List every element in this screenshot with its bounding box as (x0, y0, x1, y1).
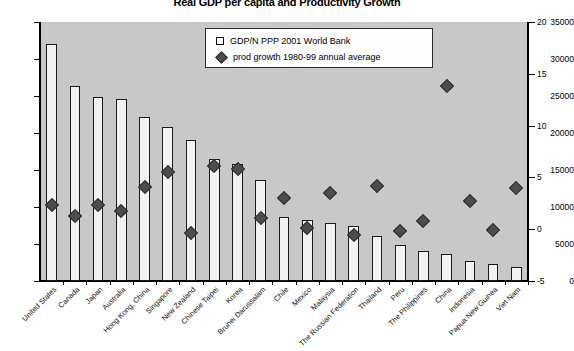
legend-label-growth: prod growth 1980-99 annual average (233, 52, 381, 62)
right-tick-label: 10 (537, 121, 567, 131)
left-tick (34, 22, 40, 23)
right-tick (529, 281, 535, 282)
left-tick-label: 10000 (540, 202, 574, 212)
right-tick (529, 177, 535, 178)
x-tick (86, 281, 87, 285)
left-tick (34, 133, 40, 134)
legend-entry-points: prod growth 1980-99 annual average (212, 49, 426, 65)
chart-container: Real GDP per capita and Productivity Gro… (0, 0, 574, 351)
bar (465, 261, 476, 281)
left-tick (34, 96, 40, 97)
left-tick-label: 30000 (540, 54, 574, 64)
left-axis-line (39, 22, 41, 282)
x-tick (389, 281, 390, 285)
right-axis-line (527, 22, 529, 282)
bar (93, 97, 104, 281)
left-tick-label: 5000 (540, 239, 574, 249)
x-tick (505, 281, 506, 285)
bar (441, 254, 452, 281)
left-tick (34, 244, 40, 245)
left-tick (34, 207, 40, 208)
right-tick-label: -5 (537, 276, 567, 286)
x-tick (412, 281, 413, 285)
bar (232, 164, 243, 281)
right-tick (529, 126, 535, 127)
bar (70, 86, 81, 281)
bar (488, 264, 499, 281)
x-tick (342, 281, 343, 285)
x-tick (296, 281, 297, 285)
diamond-marker-icon (215, 51, 228, 64)
bar (46, 44, 57, 281)
bar (511, 267, 522, 281)
bar (209, 159, 220, 281)
left-tick (34, 59, 40, 60)
bar (325, 223, 336, 281)
bar (395, 245, 406, 281)
left-tick-label: 25000 (540, 91, 574, 101)
left-tick (34, 170, 40, 171)
left-tick (34, 281, 40, 282)
x-tick (435, 281, 436, 285)
right-tick (529, 229, 535, 230)
bar (139, 117, 150, 281)
right-tick (529, 74, 535, 75)
legend-label-gdp: GDP/N PPP 2001 World Bank (230, 36, 350, 46)
right-tick-label: 20 (537, 17, 567, 27)
x-tick (319, 281, 320, 285)
square-marker-icon (216, 37, 224, 45)
chart-title: Real GDP per capita and Productivity Gro… (0, 0, 574, 8)
x-tick (528, 281, 529, 285)
bar (279, 217, 290, 281)
bar (255, 180, 266, 281)
right-tick-label: 5 (537, 172, 567, 182)
x-tick (365, 281, 366, 285)
bar (186, 140, 197, 281)
bar (162, 127, 173, 281)
x-tick (458, 281, 459, 285)
x-tick (133, 281, 134, 285)
right-tick-label: 0 (537, 224, 567, 234)
x-tick (249, 281, 250, 285)
bar (116, 99, 127, 281)
x-tick (156, 281, 157, 285)
x-tick (179, 281, 180, 285)
right-tick (529, 22, 535, 23)
x-tick (110, 281, 111, 285)
legend-entry-bars: GDP/N PPP 2001 World Bank (212, 33, 426, 49)
bar (372, 236, 383, 281)
x-tick (203, 281, 204, 285)
x-tick (272, 281, 273, 285)
x-tick (226, 281, 227, 285)
bar (418, 251, 429, 281)
right-tick-label: 15 (537, 69, 567, 79)
chart-legend: GDP/N PPP 2001 World Bank prod growth 19… (205, 28, 433, 68)
x-tick (482, 281, 483, 285)
x-tick (63, 281, 64, 285)
